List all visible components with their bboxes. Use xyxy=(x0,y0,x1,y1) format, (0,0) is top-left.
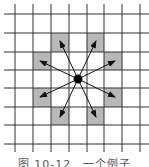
shaded-cell xyxy=(104,52,122,70)
shaded-cell xyxy=(104,88,122,107)
shaded-cell xyxy=(33,52,51,70)
knight-move-diagram xyxy=(0,0,149,167)
knight-position-dot xyxy=(74,75,83,84)
shaded-cell xyxy=(51,33,69,52)
shaded-cell xyxy=(33,88,51,107)
figure-caption: 图 10-12 一个例子 xyxy=(0,155,149,167)
